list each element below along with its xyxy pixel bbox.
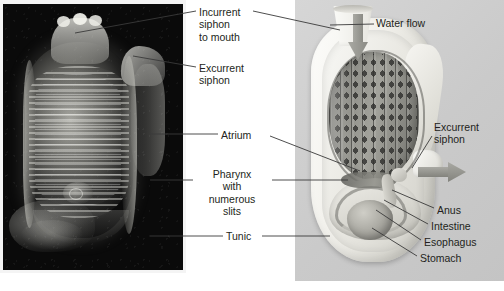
specimen-siphon-lobe: [73, 13, 87, 25]
arrow-shaft: [353, 14, 363, 44]
photograph-image: [3, 4, 183, 270]
label-esophagus: Esophagus: [424, 236, 477, 248]
label-anus: Anus: [437, 204, 461, 216]
label-intestine: Intestine: [431, 220, 471, 232]
label-excurrent-siphon: Excurrent siphon: [199, 62, 244, 87]
label-excurrent-siphon-right: Excurrent siphon: [434, 121, 500, 146]
water-flow-in-arrow: [348, 14, 368, 60]
specimen-internal-organ-ring: [69, 188, 83, 200]
specimen-siphon-lobe: [89, 15, 102, 26]
specimen-right-rim: [121, 56, 137, 234]
specimen-left-rim: [23, 60, 36, 228]
tunicate-photograph-panel: [0, 0, 186, 273]
label-pharynx: Pharynx with numerous slits: [196, 168, 268, 218]
specimen-siphon-lobe: [57, 16, 70, 27]
arrow-shaft: [418, 167, 450, 177]
label-incurrent-siphon: Incurrent siphon to mouth: [199, 6, 240, 43]
label-tunic: Tunic: [226, 230, 251, 242]
label-atrium: Atrium: [221, 129, 251, 141]
arrow-head: [448, 162, 466, 182]
tunicate-anatomy-figure: Incurrent siphon to mouth Excurrent siph…: [0, 0, 504, 291]
label-water-flow: Water flow: [376, 17, 425, 29]
anus-structure: [391, 168, 407, 182]
water-flow-out-arrow: [418, 162, 466, 182]
arrow-head: [348, 42, 368, 60]
pharynx-outline: [327, 50, 425, 186]
label-stomach: Stomach: [420, 252, 461, 264]
incurrent-siphon-opening: [333, 5, 373, 13]
